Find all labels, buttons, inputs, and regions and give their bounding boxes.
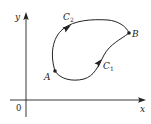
curve-c1	[55, 33, 129, 80]
point-a	[53, 69, 57, 73]
point-a-label: A	[43, 72, 51, 82]
x-axis-label: x	[140, 104, 145, 114]
origin-label: 0	[16, 103, 21, 113]
curve-c1-label-sub: 1	[110, 65, 114, 72]
curve-c2-label-sub: 2	[70, 16, 74, 23]
curves	[52, 20, 129, 80]
curve-c2-label: C2	[63, 12, 74, 23]
point-b	[127, 31, 131, 35]
line-integral-diagram: y 0 x A B C2 C1	[0, 0, 151, 124]
point-b-label: B	[131, 29, 139, 39]
curve-c1-label: C1	[103, 61, 114, 72]
y-axis-label: y	[14, 12, 21, 22]
c1-direction-arrow-icon	[95, 59, 103, 68]
